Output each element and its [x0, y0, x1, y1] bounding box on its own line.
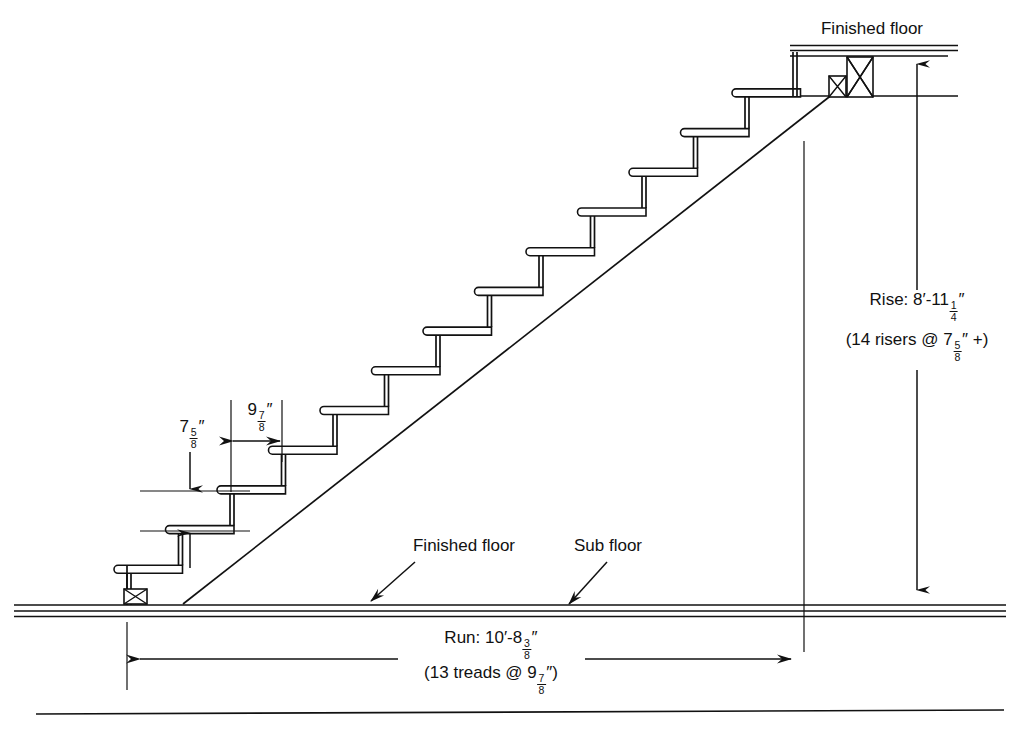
rise-unit: ″ — [958, 290, 964, 309]
stair-section-diagram: Finished floor Finished floor Sub floor … — [0, 0, 1022, 729]
run-prefix: Run: 10′-8 — [444, 628, 522, 647]
riser-numerator: 5 — [190, 427, 198, 438]
bottom-rule — [36, 710, 1004, 714]
tread-slab — [166, 526, 235, 534]
tread-slab — [320, 407, 389, 415]
tread-slab — [526, 248, 595, 256]
riser-fraction: 58 — [190, 427, 198, 450]
tread-unit: ″ — [266, 400, 272, 419]
run-unit: ″ — [532, 628, 538, 647]
riser-dimension-label: 758″ — [180, 418, 205, 450]
run-note-fraction: 78 — [537, 673, 545, 696]
tread-denominator: 8 — [258, 421, 266, 433]
run-note-numerator: 7 — [537, 673, 545, 684]
rise-note-label: (14 risers @ 758″ +) — [846, 331, 989, 363]
run-dimension-label: Run: 10′-838″ — [444, 629, 537, 661]
tread-slab — [423, 327, 492, 335]
run-numerator: 3 — [523, 638, 531, 649]
tread-slab — [269, 446, 338, 454]
lower-finished-floor-label: Finished floor — [413, 537, 515, 554]
stringer-line — [183, 90, 838, 604]
rise-note-prefix: (14 risers @ 7 — [846, 330, 953, 349]
sub-floor-label: Sub floor — [574, 537, 642, 554]
run-note-suffix: ″) — [546, 663, 558, 682]
run-note-prefix: (13 treads @ 9 — [424, 663, 537, 682]
tread-slab — [475, 287, 544, 295]
tread-slab — [372, 367, 441, 375]
rise-prefix: Rise: 8′-11 — [870, 290, 949, 309]
run-note-denominator: 8 — [537, 684, 545, 696]
tread-slab — [732, 89, 801, 97]
rise-fraction: 14 — [950, 300, 958, 323]
tread-numerator: 7 — [258, 410, 266, 421]
top-landing-assembly — [790, 52, 948, 97]
riser-whole: 7 — [180, 417, 189, 436]
riser-denominator: 8 — [190, 438, 198, 450]
tread-slab — [629, 168, 698, 176]
upper-finished-floor-label: Finished floor — [821, 20, 923, 37]
tread-slab — [681, 129, 750, 137]
run-fraction: 38 — [523, 638, 531, 661]
finished-floor-leader — [371, 562, 415, 601]
stair-steps — [114, 89, 801, 605]
tread-whole: 9 — [248, 400, 257, 419]
diagram-canvas — [0, 0, 1022, 729]
bottom-blocking — [124, 589, 147, 604]
rise-denominator: 4 — [950, 311, 958, 323]
rise-note-denominator: 8 — [953, 351, 961, 363]
tread-slab — [114, 565, 183, 573]
sub-floor-leader — [569, 562, 607, 604]
rise-numerator: 1 — [950, 300, 958, 311]
rise-note-suffix: ″ +) — [962, 330, 988, 349]
tread-slab — [578, 208, 647, 216]
rise-note-numerator: 5 — [953, 340, 961, 351]
run-note-label: (13 treads @ 978″) — [424, 664, 558, 696]
run-denominator: 8 — [523, 649, 531, 661]
tread-fraction: 78 — [258, 410, 266, 433]
riser-unit: ″ — [198, 417, 204, 436]
rise-dimension-label: Rise: 8′-1114″ — [870, 291, 965, 323]
tread-slab — [217, 486, 286, 494]
upper-finished-floor-lines — [790, 46, 958, 97]
rise-note-fraction: 58 — [953, 340, 961, 363]
lower-floor-lines — [14, 605, 1006, 617]
tread-dimension-label: 978″ — [248, 401, 273, 433]
